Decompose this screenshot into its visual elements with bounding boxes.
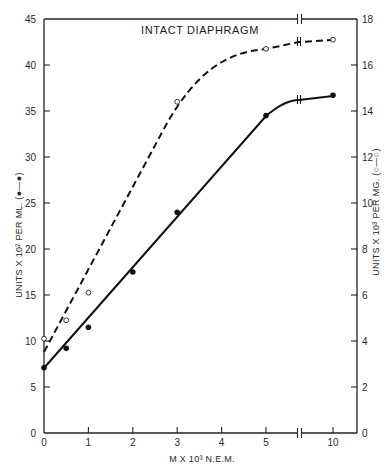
y-right-tick-label: 8 bbox=[362, 244, 368, 255]
y-left-tick-label: 10 bbox=[25, 336, 37, 347]
y-right-tick-label: 6 bbox=[362, 290, 368, 301]
x-tick-label: 1 bbox=[86, 437, 92, 448]
open-circle-marker bbox=[264, 47, 269, 52]
y-left-tick-label: 40 bbox=[25, 60, 37, 71]
y-right-tick-label: 14 bbox=[362, 106, 374, 117]
y-left-tick-label: 45 bbox=[25, 14, 37, 25]
right-y-axis-label: UNITS X 10³ PER MG. (○—○) bbox=[371, 148, 381, 275]
x-tick-label: 2 bbox=[130, 437, 136, 448]
x-tick-label: 3 bbox=[174, 437, 180, 448]
filled-circle-marker bbox=[41, 365, 47, 371]
filled-circle-marker bbox=[63, 346, 69, 352]
curve-break-marks bbox=[298, 37, 301, 104]
y-left-tick-label: 5 bbox=[30, 382, 36, 393]
filled-circle-marker bbox=[330, 93, 336, 99]
chart-figure: 01234510 051015202530354045 024681012141… bbox=[0, 0, 392, 467]
y-right-tick-label: 2 bbox=[362, 382, 368, 393]
y-left-tick-label: 25 bbox=[25, 198, 37, 209]
x-tick-label: 0 bbox=[41, 437, 47, 448]
open-circle-marker bbox=[64, 318, 69, 323]
y-left-tick-label: 15 bbox=[25, 290, 37, 301]
left-y-axis-ticks: 051015202530354045 bbox=[25, 14, 50, 439]
filled-circle-marker bbox=[130, 269, 136, 275]
open-circle-marker bbox=[86, 290, 91, 295]
y-left-tick-label: 35 bbox=[25, 106, 37, 117]
dashed-curve-per-mg bbox=[44, 40, 333, 352]
y-left-tick-label: 0 bbox=[30, 428, 36, 439]
filled-circle-marker bbox=[86, 324, 92, 330]
open-circle-marker bbox=[175, 99, 180, 104]
y-right-tick-label: 4 bbox=[362, 336, 368, 347]
curves bbox=[44, 40, 333, 368]
y-right-tick-label: 16 bbox=[362, 60, 374, 71]
open-circle-marker bbox=[42, 336, 47, 341]
y-right-tick-label: 0 bbox=[362, 428, 368, 439]
x-tick-label: 4 bbox=[219, 437, 225, 448]
left-y-axis-label: UNITS X 10² PER ML. (●—●) bbox=[14, 172, 24, 297]
chart-title: INTACT DIAPHRAGM bbox=[141, 24, 259, 36]
plot-frame bbox=[44, 19, 357, 433]
y-left-tick-label: 20 bbox=[25, 244, 37, 255]
filled-circle-marker bbox=[263, 113, 269, 119]
filled-circle-marker bbox=[174, 209, 180, 215]
x-axis-label: M X 10³ N.E.M. bbox=[169, 454, 235, 464]
y-left-tick-label: 30 bbox=[25, 152, 37, 163]
y-right-tick-label: 18 bbox=[362, 14, 374, 25]
x-axis-ticks: 01234510 bbox=[41, 427, 339, 448]
axis-break-ticks bbox=[298, 14, 302, 438]
x-tick-label: 5 bbox=[263, 437, 269, 448]
x-tick-label: 10 bbox=[327, 437, 339, 448]
open-circle-marker bbox=[331, 37, 336, 42]
